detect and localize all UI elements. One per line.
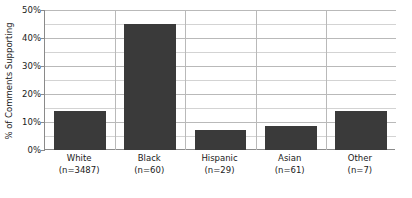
bar xyxy=(335,111,387,150)
x-axis-category-labels: White(n=3487)Black(n=60)Hispanic(n=29)As… xyxy=(44,153,395,195)
category-sample-size: (n=7) xyxy=(325,165,395,177)
category-name: White xyxy=(44,153,114,165)
x-axis-category-label: Other(n=7) xyxy=(325,153,395,176)
y-axis-tick-mark xyxy=(41,10,45,11)
bar xyxy=(124,24,176,150)
x-axis-category-label: Black(n=60) xyxy=(114,153,184,176)
y-axis-tick-label: 50% xyxy=(14,6,41,15)
y-axis-tick-labels: 0%10%20%30%40%50% xyxy=(14,0,41,160)
category-name: Asian xyxy=(255,153,325,165)
bar-chart: % of Comments Supporting 0%10%20%30%40%5… xyxy=(0,0,412,198)
y-axis-tick-label: 20% xyxy=(14,90,41,99)
bar xyxy=(54,111,106,150)
category-name: Black xyxy=(114,153,184,165)
category-name: Hispanic xyxy=(184,153,254,165)
y-axis-tick-mark xyxy=(41,150,45,151)
category-sample-size: (n=60) xyxy=(114,165,184,177)
bar xyxy=(265,126,317,150)
y-axis-tick-mark xyxy=(41,38,45,39)
y-axis-tick-label: 10% xyxy=(14,118,41,127)
category-sample-size: (n=3487) xyxy=(44,165,114,177)
bar xyxy=(195,130,247,150)
category-name: Other xyxy=(325,153,395,165)
y-axis-tick-mark xyxy=(41,122,45,123)
y-axis-tick-label: 40% xyxy=(14,34,41,43)
bar-series xyxy=(45,10,396,150)
y-axis-tick-mark xyxy=(41,94,45,95)
y-axis-tick-label: 0% xyxy=(14,146,41,155)
x-axis-category-label: Asian(n=61) xyxy=(255,153,325,176)
plot-area xyxy=(44,10,395,150)
y-axis-tick-label: 30% xyxy=(14,62,41,71)
y-axis-tick-mark xyxy=(41,66,45,67)
x-axis-category-label: White(n=3487) xyxy=(44,153,114,176)
category-sample-size: (n=29) xyxy=(184,165,254,177)
x-axis-category-label: Hispanic(n=29) xyxy=(184,153,254,176)
category-sample-size: (n=61) xyxy=(255,165,325,177)
